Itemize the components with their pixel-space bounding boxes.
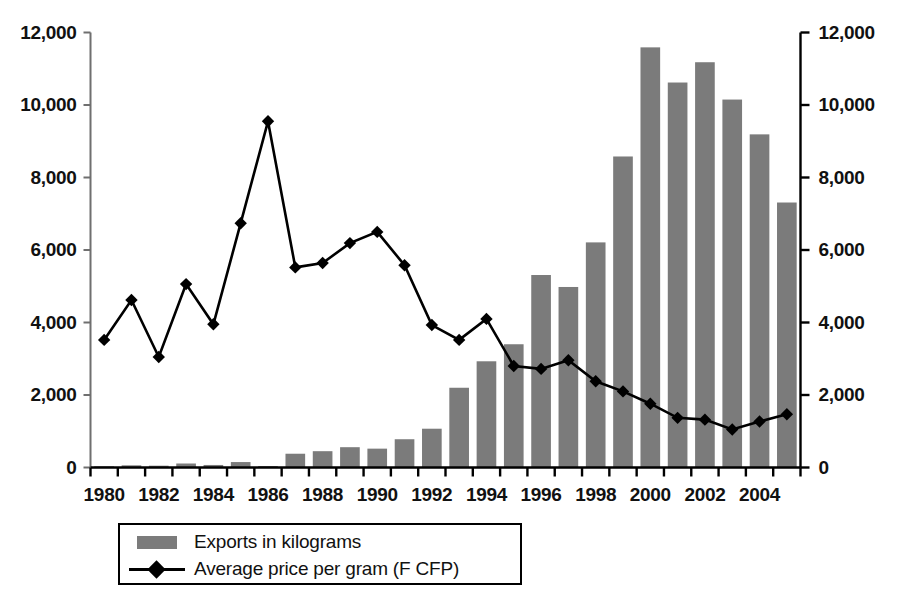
price-marker-1986: [262, 115, 274, 127]
y-axis-right-label-10000: 10,000: [819, 95, 875, 114]
legend-item-price-label: Average price per gram (F CFP): [194, 558, 459, 580]
bar-1990: [367, 449, 387, 468]
bar-1998: [586, 242, 606, 467]
price-marker-1985: [234, 217, 246, 229]
price-marker-1982: [153, 351, 165, 363]
y-axis-right-label-4000: 4,000: [819, 313, 865, 332]
bar-1992: [422, 429, 442, 468]
bar-2002: [695, 62, 715, 467]
bar-1994: [477, 361, 497, 467]
y-axis-right-label-6000: 6,000: [819, 240, 865, 259]
chart-page: 02,0004,0006,0008,00010,00012,000 02,000…: [0, 0, 898, 602]
bar-1988: [313, 451, 333, 467]
y-axis-left-label-10000: 10,000: [0, 95, 77, 114]
bar-2005: [777, 203, 797, 468]
bar-1993: [449, 388, 469, 468]
y-axis-right-label-12000: 12,000: [819, 23, 875, 42]
chart-plot-area: [0, 0, 898, 602]
y-axis-right-label-2000: 2,000: [819, 385, 865, 404]
bar-series-exports: [94, 47, 796, 467]
bar-2001: [668, 83, 688, 468]
bar-1999: [613, 156, 633, 467]
legend-item-price: Average price per gram (F CFP): [120, 555, 520, 583]
legend-bar-swatch-icon: [120, 536, 194, 549]
y-axis-left-label-2000: 2,000: [0, 385, 77, 404]
y-axis-left-label-6000: 6,000: [0, 240, 77, 259]
y-axis-left-label-4000: 4,000: [0, 313, 77, 332]
y-axis-left-label-0: 0: [0, 458, 77, 477]
x-axis-label-2004: 2004: [720, 485, 800, 504]
bar-1997: [559, 287, 579, 468]
bar-1987: [285, 454, 305, 468]
y-axis-right-label-8000: 8,000: [819, 168, 865, 187]
y-axis-right-label-0: 0: [819, 458, 829, 477]
bar-1991: [395, 439, 415, 467]
price-marker-1992: [426, 319, 438, 331]
chart-legend: Exports in kilograms Average price per g…: [118, 523, 522, 585]
bar-1989: [340, 447, 360, 467]
y-axis-left-label-12000: 12,000: [0, 23, 77, 42]
exports-and-price-chart: [0, 0, 898, 602]
legend-item-exports: Exports in kilograms: [120, 528, 520, 556]
legend-item-exports-label: Exports in kilograms: [194, 531, 361, 553]
legend-line-diamond-swatch-icon: [120, 562, 194, 576]
price-marker-1987: [289, 261, 301, 273]
y-axis-left-label-8000: 8,000: [0, 168, 77, 187]
bar-2003: [722, 100, 742, 468]
line-series-average-price: [98, 115, 793, 436]
